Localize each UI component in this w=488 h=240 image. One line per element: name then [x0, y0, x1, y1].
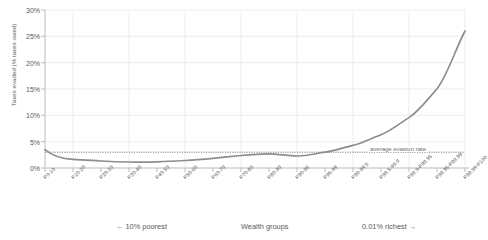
evasion-rate-line [45, 31, 465, 162]
caption-poorest: ← 10% poorest [116, 222, 167, 231]
caption-richest: 0.01% richest → [362, 222, 416, 231]
y-axis-ticks [41, 10, 45, 168]
average-evasion-rate-label: average evasion rate [368, 146, 428, 152]
caption-wealth-groups: Wealth groups [241, 222, 289, 231]
